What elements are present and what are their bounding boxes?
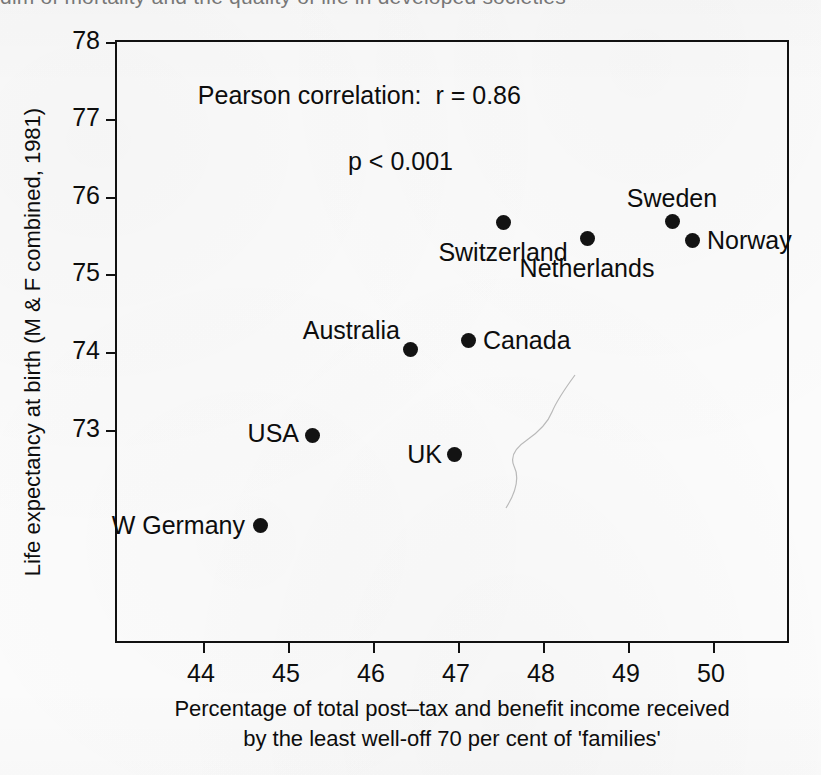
y-tick-label-78: 78 — [56, 26, 100, 55]
x-tick-label-44: 44 — [171, 659, 231, 688]
x-tick-44 — [203, 641, 205, 653]
y-tick-label-74: 74 — [56, 336, 100, 365]
x-axis-title-line-2: by the least well-off 70 per cent of 'fa… — [115, 724, 789, 754]
data-point-norway — [685, 233, 700, 248]
data-point-australia — [403, 342, 418, 357]
point-label-w-germany: W Germany — [112, 511, 245, 540]
x-tick-label-50: 50 — [681, 659, 741, 688]
correlation-annotation: Pearson correlation: r = 0.86 p < 0.001 — [170, 46, 521, 244]
y-tick-76 — [106, 197, 117, 199]
x-tick-49 — [628, 641, 630, 653]
x-axis-title-line-1: Percentage of total post–tax and benefit… — [115, 694, 789, 724]
data-point-netherlands — [580, 231, 595, 246]
x-tick-48 — [543, 641, 545, 653]
y-tick-73 — [106, 430, 117, 432]
data-point-w-germany — [253, 518, 268, 533]
x-tick-50 — [713, 641, 715, 653]
page-bleed-text: dim of mortality and the quality of life… — [0, 0, 821, 16]
annotation-line-1: Pearson correlation: r = 0.86 — [198, 81, 521, 109]
point-label-uk: UK — [407, 440, 442, 469]
y-axis-title-text: Life expectancy at birth (M & F combined… — [20, 107, 46, 575]
x-tick-label-48: 48 — [511, 659, 571, 688]
x-tick-46 — [373, 641, 375, 653]
x-tick-label-46: 46 — [341, 659, 401, 688]
x-tick-47 — [458, 641, 460, 653]
point-label-usa: USA — [248, 419, 299, 448]
y-tick-75 — [106, 274, 117, 276]
point-label-canada: Canada — [483, 326, 571, 355]
x-tick-label-47: 47 — [426, 659, 486, 688]
point-label-sweden: Sweden — [627, 184, 717, 213]
data-point-usa — [305, 428, 320, 443]
point-label-norway: Norway — [707, 226, 792, 255]
y-tick-77 — [106, 119, 117, 121]
data-point-sweden — [665, 214, 680, 229]
data-point-uk — [447, 447, 462, 462]
y-tick-label-77: 77 — [56, 103, 100, 132]
x-tick-label-45: 45 — [256, 659, 316, 688]
annotation-line-2: p < 0.001 — [170, 145, 521, 178]
y-tick-78 — [106, 42, 117, 44]
x-tick-45 — [288, 641, 290, 653]
point-label-australia: Australia — [303, 316, 400, 345]
y-tick-74 — [106, 352, 117, 354]
data-point-canada — [461, 333, 476, 348]
figure-scatter-plot: dim of mortality and the quality of life… — [0, 0, 821, 775]
point-label-netherlands: Netherlands — [520, 254, 655, 283]
y-axis-title: Life expectancy at birth (M & F combined… — [18, 40, 48, 643]
y-tick-label-76: 76 — [56, 181, 100, 210]
y-tick-label-75: 75 — [56, 258, 100, 287]
y-tick-label-73: 73 — [56, 414, 100, 443]
bleed-text-line: dim of mortality and the quality of life… — [0, 0, 566, 9]
x-axis-title: Percentage of total post–tax and benefit… — [115, 694, 789, 754]
x-tick-label-49: 49 — [596, 659, 656, 688]
